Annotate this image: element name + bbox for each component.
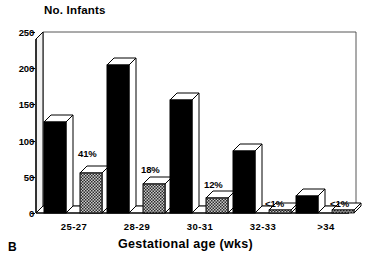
y-tick-label-100: 100 <box>4 136 34 147</box>
y-tick-mark-250 <box>31 32 35 33</box>
bar-solid-28-29 <box>107 58 136 213</box>
x-tick-label-30-31: 30-31 <box>170 221 230 232</box>
data-label-32-33: <1% <box>265 198 284 209</box>
y-tick-label-200: 200 <box>4 63 34 74</box>
figure-panel-b: No. Infants 250 200 150 100 50 0 <box>0 0 371 265</box>
bar-solid-gt34 <box>296 189 325 213</box>
data-label-28-29: 18% <box>141 164 160 175</box>
y-tick-label-250: 250 <box>4 27 34 38</box>
data-label-25-27: 41% <box>78 148 97 159</box>
y-tick-mark-100 <box>31 141 35 142</box>
data-label-gt34: <1% <box>330 198 349 209</box>
y-tick-mark-150 <box>31 104 35 105</box>
x-tick-label-28-29: 28-29 <box>107 221 167 232</box>
x-tick-label-32-33: 32-33 <box>233 221 293 232</box>
x-axis-title: Gestational age (wks) <box>0 237 371 251</box>
bar-solid-32-33 <box>233 144 262 213</box>
y-tick-label-150: 150 <box>4 99 34 110</box>
y-tick-mark-50 <box>31 177 35 178</box>
panel-label: B <box>8 240 17 254</box>
data-label-30-31: 12% <box>204 179 223 190</box>
x-tick-label-gt34: >34 <box>296 221 356 232</box>
bar-solid-25-27 <box>44 115 73 213</box>
y-tick-mark-200 <box>31 68 35 69</box>
y-tick-label-50: 50 <box>4 172 34 183</box>
x-tick-label-25-27: 25-27 <box>44 221 104 232</box>
y-tick-label-0: 0 <box>4 208 34 219</box>
y-tick-mark-0 <box>31 213 35 214</box>
bar-solid-30-31 <box>170 93 199 213</box>
